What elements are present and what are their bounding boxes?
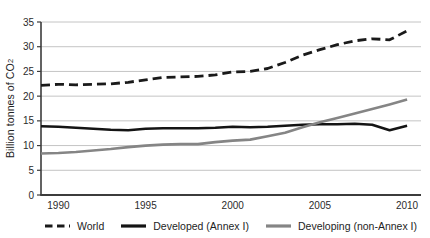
world-dashed-line-sample [44, 221, 71, 231]
y-tick-label: 20 [23, 91, 35, 102]
x-tick-label: 2010 [396, 200, 419, 211]
legend-item-developing: Developing (non-Annex I) [265, 220, 417, 232]
developed-solid-line-sample [120, 221, 147, 231]
y-tick-label: 25 [23, 66, 35, 77]
y-tick-label: 30 [23, 41, 35, 52]
legend-item-world: World [44, 220, 104, 232]
legend-item-developed: Developed (Annex I) [120, 220, 249, 232]
developing-gray-line-sample [265, 221, 292, 231]
y-tick-label: 10 [23, 140, 35, 151]
x-tick-label: 2000 [222, 200, 245, 211]
co2-emissions-chart: Billion tonnes of CO2 051015202530351990… [0, 0, 430, 238]
legend-label-developed: Developed (Annex I) [153, 220, 249, 232]
x-tick-label: 2005 [309, 200, 332, 211]
legend: World Developed (Annex I) Developing (no… [44, 220, 417, 232]
series-line-developed-annex-i [41, 124, 407, 130]
plot-area: 0510152025303519901995200020052010 [0, 0, 430, 214]
x-tick-label: 1995 [134, 200, 157, 211]
y-tick-label: 0 [28, 190, 34, 201]
y-tick-label: 35 [23, 17, 35, 28]
series-line-world [41, 31, 407, 85]
legend-label-world: World [77, 220, 104, 232]
x-tick-label: 1990 [47, 200, 70, 211]
y-tick-label: 5 [28, 165, 34, 176]
legend-label-developing: Developing (non-Annex I) [298, 220, 417, 232]
y-tick-label: 15 [23, 115, 35, 126]
